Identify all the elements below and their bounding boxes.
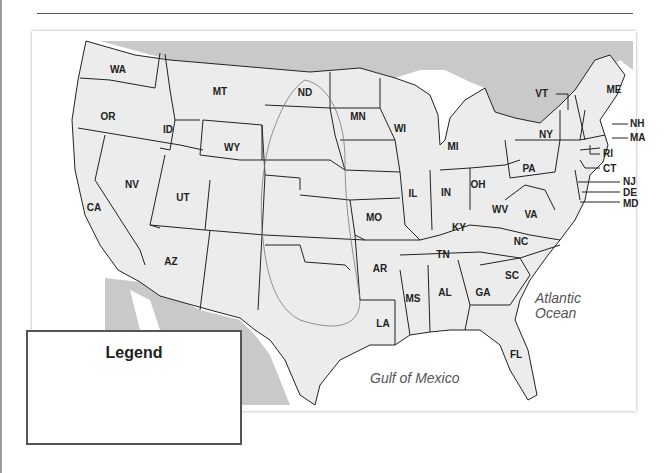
state-label-ma: MA [630, 132, 646, 143]
state-label-me: ME [607, 84, 622, 95]
state-label-az: AZ [164, 256, 177, 267]
state-label-vt: VT [535, 88, 548, 99]
state-label-pa: PA [522, 163, 535, 174]
state-label-va: VA [524, 209, 537, 220]
state-label-ca: CA [87, 202, 101, 213]
state-label-ct: CT [603, 163, 616, 174]
atlantic-ocean-label-line2: Ocean [535, 305, 576, 321]
state-label-ga: GA [476, 287, 491, 298]
state-label-wv: WV [492, 204, 508, 215]
state-label-wi: WI [394, 123, 406, 134]
state-label-sc: SC [505, 270, 519, 281]
state-label-nv: NV [125, 179, 139, 190]
atlantic-ocean-label-line1: Atlantic [534, 290, 581, 306]
state-label-ms: MS [406, 293, 421, 304]
state-label-nh: NH [630, 118, 644, 129]
state-label-wa: WA [110, 64, 126, 75]
state-label-or: OR [101, 111, 117, 122]
state-label-mi: MI [447, 141, 458, 152]
state-label-il: IL [409, 188, 418, 199]
gulf-of-mexico-label: Gulf of Mexico [370, 370, 460, 386]
state-label-oh: OH [471, 179, 486, 190]
legend-box: Legend [26, 330, 242, 445]
state-label-ut: UT [176, 192, 189, 203]
state-label-nc: NC [514, 236, 528, 247]
legend-title: Legend [28, 344, 240, 362]
state-label-la: LA [376, 318, 389, 329]
state-label-de: DE [623, 187, 637, 198]
state-label-ar: AR [373, 263, 388, 274]
state-label-mn: MN [350, 111, 366, 122]
state-label-al: AL [438, 287, 451, 298]
state-label-md: MD [623, 198, 639, 209]
state-label-ri: RI [603, 148, 613, 159]
state-label-nj: NJ [623, 176, 636, 187]
state-label-id: ID [163, 124, 173, 135]
state-label-wy: WY [224, 142, 240, 153]
state-label-fl: FL [510, 349, 522, 360]
state-label-in: IN [441, 187, 451, 198]
state-label-mo: MO [366, 212, 382, 223]
state-label-ny: NY [539, 129, 553, 140]
state-label-mt: MT [213, 86, 227, 97]
state-label-tn: TN [436, 249, 449, 260]
state-label-nd: ND [298, 87, 312, 98]
state-label-ky: KY [452, 222, 466, 233]
